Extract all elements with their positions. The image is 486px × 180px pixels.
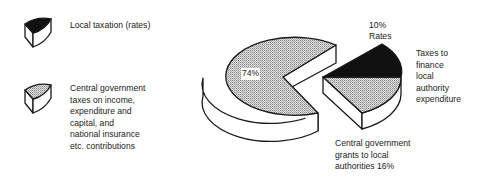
local-authority-annotation: Taxes to finance local authority expendi… (416, 48, 461, 106)
annotation-line: finance (416, 60, 461, 72)
annotation-line: authority (416, 83, 461, 95)
rates-value-label: 10% (369, 20, 386, 32)
big-slice-value-label: 74% (241, 68, 260, 80)
legend-line: national insurance (70, 129, 145, 141)
legend-line: etc. contributions (70, 141, 145, 153)
legend-line: expenditure and (70, 106, 145, 118)
rates-name-label: Rates (369, 31, 391, 43)
grants-line: grants to local (335, 150, 410, 162)
grants-label: Central government grants to local autho… (335, 138, 410, 173)
grants-line: authorities 16% (335, 161, 410, 173)
annotation-line: Taxes to (416, 48, 461, 60)
grants-line: Central government (335, 138, 410, 150)
annotation-line: expenditure (416, 94, 461, 106)
stippled-wedge-icon (25, 84, 51, 113)
legend-line: Central government (70, 83, 145, 95)
annotation-line: local (416, 71, 461, 83)
black-wedge-icon (25, 18, 51, 47)
slice-central-gov-taxes (202, 37, 336, 141)
legend-label-rates: Local taxation (rates) (70, 20, 150, 32)
legend-line: capital, and (70, 118, 145, 130)
legend-line: taxes on income, (70, 95, 145, 107)
legend-label-central-taxes: Central government taxes on income, expe… (70, 83, 145, 153)
